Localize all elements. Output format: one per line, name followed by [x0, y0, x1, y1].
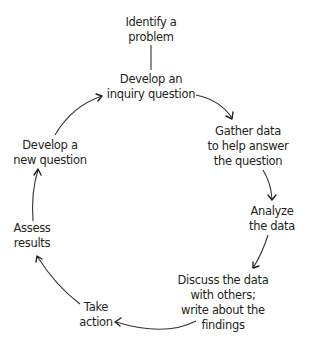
node-gather-data: Gather data to help answer the question — [203, 124, 293, 169]
node-label-line: Develop a — [8, 138, 92, 153]
node-assess-results: Assess results — [7, 221, 57, 251]
node-label-line: inquiry question — [101, 87, 201, 102]
node-analyze-data: Analyze the data — [242, 204, 302, 234]
node-label-line: Assess — [7, 221, 57, 236]
node-label-line: Take — [71, 300, 121, 315]
node-identify-problem: Identify a problem — [111, 15, 191, 45]
node-label-line: Develop an — [101, 72, 201, 87]
node-label-line: problem — [111, 30, 191, 45]
node-discuss-data: Discuss the data with others; write abou… — [173, 273, 273, 333]
arrow-assess-to-new-question — [33, 169, 41, 221]
node-develop-new-question: Develop a new question — [8, 138, 92, 168]
node-label-line: write about the — [173, 303, 273, 318]
inquiry-cycle-diagram: Identify a problem Develop an inquiry qu… — [0, 0, 309, 352]
node-take-action: Take action — [71, 300, 121, 330]
node-label-line: Analyze — [242, 204, 302, 219]
arrow-new-question-to-inquiry — [55, 94, 102, 135]
node-develop-inquiry-question: Develop an inquiry question — [101, 72, 201, 102]
arrow-inquiry-to-gather — [196, 95, 233, 119]
node-label-line: Discuss the data — [173, 273, 273, 288]
arrow-action-to-assess — [36, 256, 80, 304]
node-label-line: new question — [8, 153, 92, 168]
node-label-line: results — [7, 236, 57, 251]
arrow-analyze-to-discuss — [253, 235, 268, 268]
node-label-line: the question — [203, 154, 293, 169]
node-label-line: findings — [173, 318, 273, 333]
node-label-line: action — [71, 315, 121, 330]
node-label-line: the data — [242, 219, 302, 234]
node-label-line: with others; — [173, 288, 273, 303]
node-label-line: to help answer — [203, 139, 293, 154]
arrow-gather-to-analyze — [263, 170, 276, 200]
node-label-line: Identify a — [111, 15, 191, 30]
node-label-line: Gather data — [203, 124, 293, 139]
